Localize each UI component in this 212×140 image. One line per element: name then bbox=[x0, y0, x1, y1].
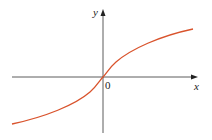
x-axis-label: x bbox=[193, 80, 199, 92]
x-axis-arrow-icon bbox=[191, 75, 198, 80]
y-axis-arrow-icon bbox=[101, 9, 106, 16]
y-axis-label: y bbox=[92, 6, 98, 18]
graph: y x 0 bbox=[0, 0, 212, 140]
function-curve bbox=[12, 29, 193, 124]
origin-label: 0 bbox=[105, 79, 111, 91]
